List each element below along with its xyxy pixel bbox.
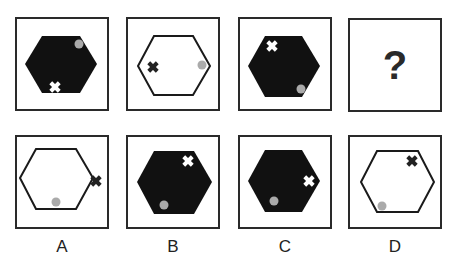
hexagon-shape: [128, 19, 218, 109]
hexagon-shape: [128, 137, 218, 227]
option-d-label: D: [348, 237, 442, 257]
question-cell-2: [126, 17, 220, 111]
dot-icon: [297, 85, 306, 94]
dot-icon: [160, 201, 169, 210]
question-cell-3: [238, 17, 332, 111]
option-d[interactable]: [348, 135, 442, 229]
hexagon-shape: [240, 137, 330, 227]
dot-icon: [75, 40, 84, 49]
hexagon-shape: [17, 19, 107, 109]
hexagon-shape: [240, 19, 330, 109]
question-cell-4: ?: [348, 18, 442, 112]
dot-icon: [52, 198, 61, 207]
dot-icon: [270, 197, 279, 206]
option-b-label: B: [126, 237, 220, 257]
question-mark: ?: [350, 20, 440, 110]
dot-icon: [198, 61, 207, 70]
question-cell-1: [15, 17, 109, 111]
option-c-label: C: [238, 237, 332, 257]
hexagon-shape: [17, 137, 107, 227]
option-c[interactable]: [238, 135, 332, 229]
option-a[interactable]: [15, 135, 109, 229]
hexagon-shape: [350, 137, 440, 227]
option-a-label: A: [15, 237, 109, 257]
option-b[interactable]: [126, 135, 220, 229]
dot-icon: [378, 202, 387, 211]
